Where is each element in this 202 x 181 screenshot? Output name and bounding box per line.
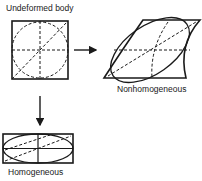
nonhomogeneous-body [99, 5, 200, 96]
homogeneous-body [3, 134, 73, 163]
deformation-diagram [0, 0, 202, 181]
undeformed-body [12, 21, 68, 79]
